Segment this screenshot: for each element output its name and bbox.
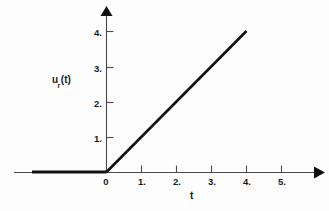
x-axis-ticks	[142, 166, 282, 173]
ramp-rising-segment	[107, 31, 247, 172]
ramp-function-figure: ur(t) t 0 1. 2. 3. 4. 5. 1. 2. 3. 4.	[0, 0, 329, 211]
x-tick-label-0: 0	[103, 176, 108, 187]
y-axis-label-argument: (t)	[61, 74, 71, 85]
x-tick-label-5: 5.	[278, 176, 286, 187]
x-tick-label-2: 2.	[173, 176, 181, 187]
y-tick-label-4: 4.	[86, 27, 102, 38]
x-tick-label-1: 1.	[138, 176, 146, 187]
x-tick-label-4: 4.	[243, 176, 251, 187]
x-axis-label: t	[190, 190, 193, 201]
y-axis-arrowhead	[101, 6, 113, 16]
x-tick-label-3: 3.	[208, 176, 216, 187]
y-axis-label: ur(t)	[52, 75, 71, 87]
y-axis-ticks	[107, 32, 114, 138]
y-axis-label-subscript: r	[58, 82, 61, 89]
y-tick-label-3: 3.	[86, 63, 102, 74]
y-tick-label-2: 2.	[86, 98, 102, 109]
y-tick-label-1: 1.	[86, 133, 102, 144]
x-axis-arrowhead	[314, 167, 325, 179]
